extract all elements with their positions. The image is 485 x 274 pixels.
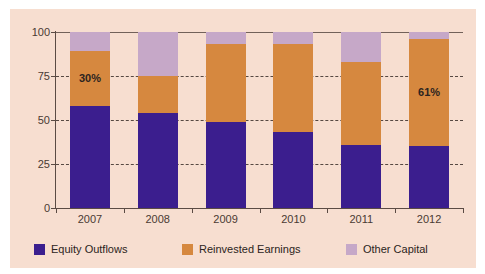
x-axis-tick-label-2008: 2008	[123, 213, 193, 225]
legend-item-other-capital[interactable]: Other Capital	[346, 243, 428, 255]
bar-group-2010[interactable]	[273, 32, 313, 208]
plot-area	[56, 32, 463, 208]
bar-segment-2007-equity-outflows[interactable]	[70, 106, 110, 208]
bar-segment-2010-other-capital[interactable]	[273, 32, 313, 44]
y-axis-tick-label-100: 100	[16, 26, 50, 38]
bar-segment-2011-reinvested-earnings[interactable]	[341, 62, 381, 145]
data-label-2007: 30%	[79, 72, 101, 84]
x-axis-tick-label-2011: 2011	[326, 213, 396, 225]
bar-group-2009[interactable]	[206, 32, 246, 208]
bar-segment-2008-reinvested-earnings[interactable]	[138, 76, 178, 113]
legend-swatch-icon	[34, 244, 45, 255]
bar-group-2012[interactable]	[409, 32, 449, 208]
y-axis-tick-label-0: 0	[16, 202, 50, 214]
legend-label: Other Capital	[363, 243, 428, 255]
bar-segment-2012-other-capital[interactable]	[409, 32, 449, 39]
bar-segment-2011-other-capital[interactable]	[341, 32, 381, 62]
chart-legend: Equity OutflowsReinvested EarningsOther …	[10, 240, 476, 258]
x-axis-tick-label-2010: 2010	[258, 213, 328, 225]
bar-segment-2008-other-capital[interactable]	[138, 32, 178, 76]
legend-item-equity-outflows[interactable]: Equity Outflows	[34, 243, 127, 255]
legend-label: Equity Outflows	[51, 243, 127, 255]
bar-segment-2010-reinvested-earnings[interactable]	[273, 44, 313, 132]
page-margin-top	[0, 0, 485, 9]
legend-item-reinvested-earnings[interactable]: Reinvested Earnings	[182, 243, 301, 255]
stacked-bar-chart: 0255075100 200720082009201020112012 Equi…	[0, 0, 485, 274]
y-axis-tick-label-25: 25	[16, 158, 50, 170]
legend-swatch-icon	[182, 244, 193, 255]
bar-segment-2009-other-capital[interactable]	[206, 32, 246, 44]
x-axis-tick-label-2007: 2007	[55, 213, 125, 225]
bar-segment-2011-equity-outflows[interactable]	[341, 145, 381, 208]
bar-group-2011[interactable]	[341, 32, 381, 208]
page-margin-bottom	[0, 268, 485, 274]
bar-segment-2007-other-capital[interactable]	[70, 32, 110, 51]
bar-segment-2010-equity-outflows[interactable]	[273, 132, 313, 208]
data-label-2012: 61%	[418, 86, 440, 98]
page-margin-right	[476, 0, 485, 274]
y-axis-tick-label-75: 75	[16, 70, 50, 82]
bar-group-2008[interactable]	[138, 32, 178, 208]
y-axis-tick-label-50: 50	[16, 114, 50, 126]
page-margin-left	[0, 0, 10, 274]
bar-group-2007[interactable]	[70, 32, 110, 208]
bar-segment-2008-equity-outflows[interactable]	[138, 113, 178, 208]
bar-segment-2009-equity-outflows[interactable]	[206, 122, 246, 208]
x-axis-tick-label-2009: 2009	[191, 213, 261, 225]
x-axis-tick-label-2012: 2012	[394, 213, 464, 225]
bar-segment-2012-equity-outflows[interactable]	[409, 146, 449, 208]
legend-label: Reinvested Earnings	[199, 243, 301, 255]
legend-swatch-icon	[346, 244, 357, 255]
x-axis-tick-mark-end	[463, 208, 464, 213]
bar-segment-2009-reinvested-earnings[interactable]	[206, 44, 246, 121]
